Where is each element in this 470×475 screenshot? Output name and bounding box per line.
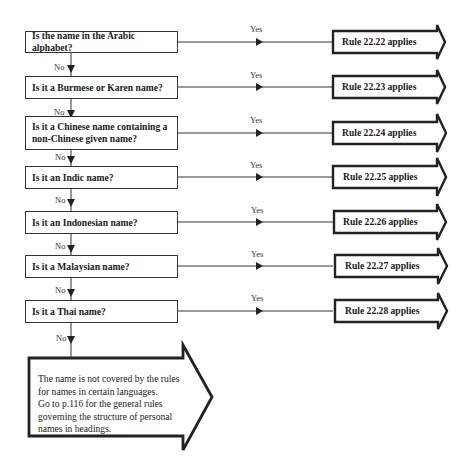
- rule-22-25: Rule 22.25 applies: [343, 171, 417, 182]
- rule-22-22: Rule 22.22 applies: [342, 36, 416, 47]
- rule-22-23: Rule 22.23 applies: [342, 81, 416, 92]
- no-label: No: [54, 107, 64, 117]
- yes-label: Yes: [250, 24, 262, 34]
- rule-22-26: Rule 22.26 applies: [343, 216, 417, 227]
- rule-22-27: Rule 22.27 applies: [345, 260, 419, 271]
- no-label: No: [55, 285, 65, 295]
- rule-22-28: Rule 22.28 applies: [345, 305, 419, 316]
- question-arabic: Is the name in the Arabic alphabet?: [25, 31, 178, 53]
- final-outcome-text: The name is not covered by the rules for…: [38, 373, 188, 436]
- question-chinese: Is it a Chinese name containing a non-Ch…: [25, 116, 178, 150]
- final-line: names in headings.: [38, 423, 188, 436]
- no-label: No: [55, 195, 65, 205]
- no-label: No: [55, 152, 65, 162]
- yes-label: Yes: [251, 293, 263, 303]
- rule-22-24: Rule 22.24 applies: [342, 127, 416, 138]
- final-line: The name is not covered by the rules: [38, 373, 188, 386]
- question-thai: Is it a Thai name?: [25, 300, 178, 323]
- yes-label: Yes: [251, 249, 263, 259]
- no-label: No: [54, 62, 64, 72]
- yes-label: Yes: [250, 70, 262, 80]
- flowchart: Is the name in the Arabic alphabet? Is i…: [0, 0, 470, 475]
- yes-label: Yes: [251, 205, 263, 215]
- question-indonesian: Is it an Indonesian name?: [25, 211, 178, 234]
- no-label: No: [56, 333, 66, 343]
- question-indic: Is it an Indic name?: [25, 166, 178, 189]
- final-line: governing the structure of personal: [38, 411, 188, 424]
- question-malaysian: Is it a Malaysian name?: [25, 255, 178, 278]
- yes-label: Yes: [250, 115, 262, 125]
- yes-label: Yes: [250, 160, 262, 170]
- final-line: for names in certain languages.: [38, 386, 188, 399]
- question-burmese-karen: Is it a Burmese or Karen name?: [25, 76, 178, 99]
- final-line: Go to p.116 for the general rules: [38, 398, 188, 411]
- no-label: No: [55, 241, 65, 251]
